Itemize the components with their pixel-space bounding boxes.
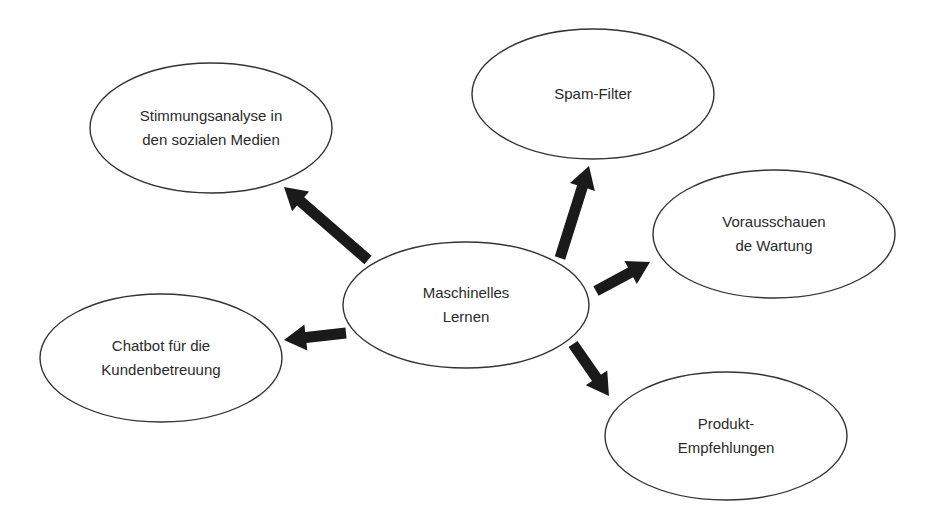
node-label-line-2: Empfehlungen <box>678 436 775 460</box>
node-label-vorausschauende-wartung: Vorausschauen de Wartung <box>722 210 825 258</box>
node-label-line-1: Vorausschauen <box>722 210 825 234</box>
node-label-line-2: Kundenbetreuung <box>101 358 220 382</box>
node-label-line-1: Spam-Filter <box>554 82 632 106</box>
arrow-icon-to-vorausschauende-wartung <box>593 261 650 296</box>
node-label-line-1: Chatbot für die <box>101 334 220 358</box>
center-node-label: Maschinelles Lernen <box>423 281 510 329</box>
arrow-icon-to-chatbot <box>284 325 347 351</box>
node-label-line-2: den sozialen Medien <box>140 128 283 152</box>
arrow-icon-to-produkt-empfehlungen <box>569 341 610 396</box>
arrow-icon-to-stimmungsanalyse <box>284 187 372 264</box>
mind-map-diagram <box>0 0 932 524</box>
center-label-line-2: Lernen <box>423 305 510 329</box>
node-label-spam-filter: Spam-Filter <box>554 82 632 106</box>
node-label-produkt-empfehlungen: Produkt- Empfehlungen <box>678 412 775 460</box>
center-label-line-1: Maschinelles <box>423 281 510 305</box>
arrow-icon-to-spam-filter <box>555 166 595 260</box>
node-label-line-1: Produkt- <box>678 412 775 436</box>
node-label-line-2: de Wartung <box>722 234 825 258</box>
node-label-line-1: Stimmungsanalyse in <box>140 104 283 128</box>
node-label-stimmungsanalyse: Stimmungsanalyse in den sozialen Medien <box>140 104 283 152</box>
node-label-chatbot: Chatbot für die Kundenbetreuung <box>101 334 220 382</box>
